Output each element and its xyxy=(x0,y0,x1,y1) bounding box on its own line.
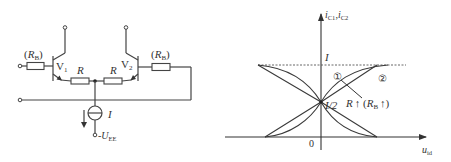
label-trend: R↑ (RB↑) xyxy=(345,97,390,111)
label-r-right: R xyxy=(109,64,117,76)
label-v2: V2 xyxy=(121,58,133,72)
label-current-i: I xyxy=(107,108,113,120)
current-direction-arrow-icon xyxy=(81,122,87,128)
trend-pointer-line xyxy=(341,80,362,98)
label-rb-right: (RB) xyxy=(151,48,170,62)
input-terminal-bottom xyxy=(18,98,22,102)
figure: (RB) V1 R R xyxy=(0,0,451,162)
midpoint-dot xyxy=(319,100,323,104)
label-curve-2: ② xyxy=(378,73,387,84)
origin-label: 0 xyxy=(309,138,314,149)
label-v1: V1 xyxy=(56,60,68,74)
transfer-characteristic-chart: iC1,iC2 I I/2 ① ② R↑ (RB↑) 0 uid xyxy=(225,9,433,156)
differential-amplifier-circuit: (RB) V1 R R xyxy=(18,26,191,142)
current-source xyxy=(88,106,102,120)
supply-terminal xyxy=(93,133,97,137)
resistor-r-left xyxy=(71,78,89,84)
resistor-rb-left xyxy=(27,63,44,70)
label-supply: -UEE xyxy=(98,130,117,142)
x-axis-label: uid xyxy=(422,144,433,156)
label-rb-left: (RB) xyxy=(24,48,43,62)
y-axis-label: iC1,iC2 xyxy=(325,9,348,21)
collector-terminal-v1 xyxy=(63,26,67,30)
transistor-v2: V2 xyxy=(121,26,138,81)
resistor-r-right xyxy=(104,78,122,84)
collector-terminal-v2 xyxy=(124,26,128,30)
transistor-v1: V1 xyxy=(53,26,71,81)
resistor-rb-right xyxy=(152,64,170,71)
input-terminal-left xyxy=(18,64,22,68)
label-level-half-i: I/2 xyxy=(324,99,338,111)
label-r-left: R xyxy=(76,64,84,76)
label-curve-1: ① xyxy=(333,71,342,82)
label-level-i: I xyxy=(324,51,330,63)
